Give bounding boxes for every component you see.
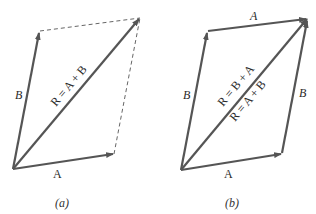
label-b-left: B [183,88,191,102]
vector-addition-diagram: A B R = A + B (a) A A B B R = B + A R = … [0,0,316,214]
vector-r [13,19,139,169]
figure-b: A A B B R = B + A R = A + B (b) [181,9,307,210]
label-a: A [53,167,62,181]
label-a-top: A [249,9,258,23]
label-b-right: B [299,86,307,100]
label-b: B [15,88,23,102]
dashed-line-top [40,18,140,31]
vector-a [13,154,113,169]
label-a-bottom: A [224,167,233,181]
figure-a: A B R = A + B (a) [13,18,140,210]
caption-a: (a) [55,196,69,210]
caption-b: (b) [225,196,239,210]
dashed-line-right [114,18,140,154]
